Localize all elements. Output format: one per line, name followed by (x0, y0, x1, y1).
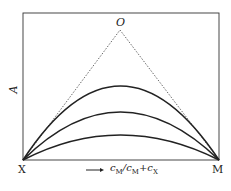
x-axis-sub: M (116, 168, 123, 176)
middle-arc (23, 112, 219, 160)
vertex-o-label: O (116, 16, 125, 29)
dotted-triangle (23, 30, 219, 160)
x-axis-plus: +c (139, 162, 153, 173)
corner-x-label: X (18, 163, 26, 176)
corner-m-label: M (212, 163, 223, 176)
lower-arc (23, 135, 219, 160)
upper-arc (23, 86, 219, 160)
arrow-icon (100, 168, 104, 172)
x-axis-label: cM/cM+cX (110, 162, 158, 176)
x-axis-slash: /c (123, 162, 132, 173)
x-axis-sub: X (153, 168, 158, 176)
y-axis-label: A (7, 86, 20, 94)
x-axis-sub: M (132, 168, 139, 176)
